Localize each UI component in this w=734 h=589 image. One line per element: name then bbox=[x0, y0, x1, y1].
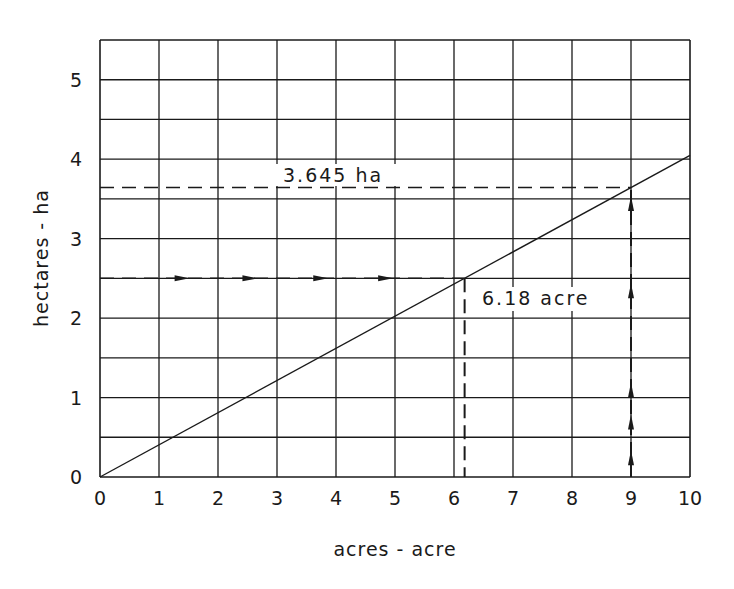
x-axis-title: acres - acre bbox=[333, 538, 456, 560]
x-tick-label: 3 bbox=[271, 487, 283, 509]
arrow-right-icon bbox=[242, 275, 257, 281]
arrow-up-icon bbox=[628, 450, 634, 465]
arrow-right-icon bbox=[313, 275, 328, 281]
y-axis-title: hectares - ha bbox=[30, 189, 52, 327]
y-tick-label: 1 bbox=[70, 387, 82, 409]
y-tick-label: 3 bbox=[70, 228, 82, 250]
x-tick-label: 6 bbox=[448, 487, 460, 509]
y-tick-label: 4 bbox=[70, 148, 82, 170]
x-tick-label: 9 bbox=[625, 487, 637, 509]
grid-lines bbox=[100, 40, 690, 477]
conversion-chart: 3.645 ha 6.18 acre 012345678910 012345 a… bbox=[0, 0, 734, 589]
x-tick-label: 8 bbox=[566, 487, 578, 509]
arrow-right-icon bbox=[378, 275, 393, 281]
x-tick-label: 7 bbox=[507, 487, 519, 509]
arrow-up-icon bbox=[628, 383, 634, 398]
y-tick-label: 0 bbox=[70, 466, 82, 488]
annotation-acre-label: 6.18 acre bbox=[482, 287, 590, 309]
y-tick-label: 5 bbox=[70, 69, 82, 91]
y-axis-ticks: 012345 bbox=[70, 69, 82, 488]
x-tick-label: 2 bbox=[212, 487, 224, 509]
arrow-right-icon bbox=[175, 275, 190, 281]
x-tick-label: 5 bbox=[389, 487, 401, 509]
annotation-ha-label: 3.645 ha bbox=[283, 164, 383, 186]
x-axis-ticks: 012345678910 bbox=[94, 487, 702, 509]
x-tick-label: 4 bbox=[330, 487, 342, 509]
arrow-up-icon bbox=[628, 196, 634, 211]
x-tick-label: 0 bbox=[94, 487, 106, 509]
x-tick-label: 1 bbox=[153, 487, 165, 509]
y-tick-label: 2 bbox=[70, 307, 82, 329]
x-tick-label: 10 bbox=[678, 487, 702, 509]
arrow-up-icon bbox=[628, 283, 634, 298]
arrow-up-icon bbox=[628, 414, 634, 429]
